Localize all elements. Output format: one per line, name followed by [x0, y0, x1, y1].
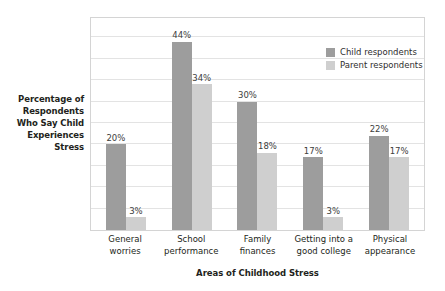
- y-axis-title-line: Stress: [6, 141, 84, 153]
- bar[interactable]: [369, 136, 389, 230]
- x-axis-category-line: worries: [92, 246, 158, 258]
- x-axis-category-label: Getting into agood college: [291, 234, 357, 257]
- y-axis-title-line: Who Say Child: [6, 117, 84, 129]
- bar[interactable]: [389, 157, 409, 230]
- y-axis-title-line: Respondents: [6, 105, 84, 117]
- bar[interactable]: [172, 42, 192, 230]
- bar-group: 44%34%: [159, 18, 225, 230]
- x-axis-category-line: General: [92, 234, 158, 246]
- bar-value-label: 18%: [258, 141, 277, 151]
- bar[interactable]: [257, 153, 277, 230]
- bar[interactable]: [303, 157, 323, 230]
- bar-wrapper: 34%: [192, 18, 212, 230]
- legend-swatch-icon: [326, 61, 335, 70]
- bar-value-label: 17%: [304, 146, 323, 156]
- bar-value-label: 30%: [238, 90, 257, 100]
- bar-wrapper: 17%: [303, 18, 323, 230]
- x-axis-category-label: Generalworries: [92, 234, 158, 257]
- x-axis-category-line: Family: [224, 234, 290, 246]
- bar[interactable]: [106, 144, 126, 230]
- legend-swatch-icon: [326, 48, 335, 57]
- x-axis-category-label: Schoolperformance: [158, 234, 224, 257]
- legend-item-child[interactable]: Child respondents: [326, 47, 423, 57]
- x-axis-labels: GeneralworriesSchoolperformanceFamilyfin…: [90, 234, 425, 257]
- x-axis-category-line: Physical: [357, 234, 423, 246]
- bar-value-label: 22%: [370, 124, 389, 134]
- y-axis-title-line: Experiences: [6, 129, 84, 141]
- x-axis-category-line: Getting into a: [291, 234, 357, 246]
- bar[interactable]: [323, 217, 343, 230]
- bar-wrapper: 30%: [237, 18, 257, 230]
- bar-value-label: 3%: [129, 206, 143, 216]
- x-axis-category-label: Familyfinances: [224, 234, 290, 257]
- bar-wrapper: 44%: [172, 18, 192, 230]
- bar-value-label: 44%: [172, 30, 191, 40]
- bar-value-label: 3%: [327, 206, 341, 216]
- bar[interactable]: [126, 217, 146, 230]
- x-axis-category-label: Physicalappearance: [357, 234, 423, 257]
- x-axis-title: Areas of Childhood Stress: [90, 268, 425, 278]
- x-axis-category-line: finances: [224, 246, 290, 258]
- legend-label: Child respondents: [340, 47, 417, 57]
- bar-value-label: 20%: [106, 133, 125, 143]
- bar-wrapper: 3%: [126, 18, 146, 230]
- legend-item-parent[interactable]: Parent respondents: [326, 60, 423, 70]
- bar[interactable]: [237, 102, 257, 230]
- bar-value-label: 17%: [390, 146, 409, 156]
- bar[interactable]: [192, 84, 212, 230]
- bar-group: 20%3%: [93, 18, 159, 230]
- y-axis-title-line: Percentage of: [6, 93, 84, 105]
- x-axis-category-line: performance: [158, 246, 224, 258]
- bar-wrapper: 20%: [106, 18, 126, 230]
- bar-wrapper: 18%: [257, 18, 277, 230]
- x-axis-category-line: appearance: [357, 246, 423, 258]
- chart-legend: Child respondents Parent respondents: [326, 47, 423, 70]
- x-axis-category-line: good college: [291, 246, 357, 258]
- legend-label: Parent respondents: [340, 60, 423, 70]
- bar-value-label: 34%: [192, 73, 211, 83]
- y-axis-title: Percentage of Respondents Who Say Child …: [6, 93, 84, 153]
- bar-group: 30%18%: [225, 18, 291, 230]
- x-axis-category-line: School: [158, 234, 224, 246]
